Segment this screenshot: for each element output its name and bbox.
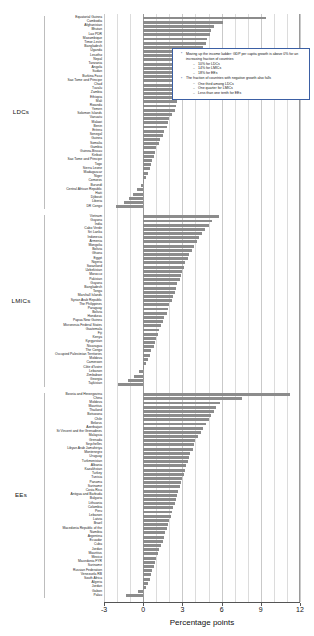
category-label: Tajikistan [88, 381, 102, 385]
group-label-ldcs: LDCs [0, 108, 42, 115]
bar [143, 431, 200, 434]
bar [143, 176, 146, 179]
x-tick-label-12: 12 [296, 606, 304, 613]
bar [143, 236, 199, 239]
bar [143, 345, 153, 348]
bar [143, 511, 172, 514]
bar [143, 586, 146, 589]
bar [143, 366, 144, 369]
bar [143, 573, 151, 576]
annotation-callout: Moving up the income ladder: GDP per cap… [172, 48, 310, 100]
annotation-sub-list: One third among LDCsOne quarter for LMIC… [186, 82, 306, 96]
bar [143, 249, 191, 252]
bar [143, 224, 208, 227]
bar [143, 155, 153, 158]
bar [143, 506, 173, 509]
bar [143, 523, 168, 526]
bar [143, 565, 153, 568]
bar [143, 460, 187, 463]
bar [128, 379, 144, 382]
bar [143, 406, 216, 409]
bar [138, 590, 143, 593]
bar [143, 414, 211, 417]
annotation-bullet-text: The fraction of countries with negative … [186, 76, 271, 80]
x-tick-label-3: 3 [180, 606, 184, 613]
bar [143, 456, 189, 459]
bar [133, 193, 143, 196]
bar [143, 105, 176, 108]
bar [143, 410, 214, 413]
bar [143, 423, 206, 426]
annotation-bullet: Moving up the income ladder: GDP per cap… [182, 52, 306, 75]
bar [143, 397, 242, 400]
bar [143, 569, 152, 572]
bar [143, 502, 174, 505]
bar [143, 180, 144, 183]
bar [143, 498, 176, 501]
bar [143, 481, 181, 484]
bar [118, 383, 143, 386]
bar [143, 439, 195, 442]
bar [143, 232, 202, 235]
group-label-ees: EEs [0, 491, 42, 498]
bar [143, 418, 208, 421]
bar [143, 548, 159, 551]
bar [143, 349, 151, 352]
bar [143, 464, 186, 467]
bar [143, 134, 163, 137]
annotation-sub-bullet: Less than one tenth for EEs [194, 91, 306, 96]
bar [143, 557, 156, 560]
x-axis-title: Percentage points [104, 618, 300, 627]
bar [143, 287, 176, 290]
bar [143, 172, 148, 175]
annotation-bullet-list: Moving up the income ladder: GDP per cap… [177, 52, 306, 95]
bar [143, 333, 157, 336]
annotation-sub-bullet: 18% for EEs [194, 71, 306, 76]
bar [139, 370, 143, 373]
bar [143, 540, 163, 543]
bar [143, 402, 220, 405]
bar [143, 544, 161, 547]
bar [143, 531, 165, 534]
x-tick-label-9: 9 [259, 606, 263, 613]
table-row: Tajikistan [0, 382, 314, 386]
bar [143, 299, 172, 302]
group-divider [44, 16, 45, 209]
bar [143, 443, 194, 446]
bar [143, 362, 146, 365]
bar [143, 312, 167, 315]
bar [143, 490, 178, 493]
bar [143, 274, 181, 277]
bar [143, 215, 219, 218]
bar [143, 337, 156, 340]
bar [143, 354, 150, 357]
bar [143, 527, 167, 530]
bar [143, 282, 177, 285]
group-divider [44, 215, 45, 387]
bar [143, 303, 169, 306]
bar [143, 130, 164, 133]
bar [143, 291, 174, 294]
bar [143, 427, 203, 430]
bar [143, 163, 151, 166]
bar [143, 561, 155, 564]
bar [143, 582, 148, 585]
bar [134, 375, 143, 378]
bar [143, 494, 177, 497]
bar [143, 452, 190, 455]
bar [143, 515, 170, 518]
bar [143, 29, 211, 32]
bar [126, 594, 143, 597]
annotation-bullet: The fraction of countries with negative … [182, 76, 306, 95]
bar [143, 358, 148, 361]
group-divider [44, 393, 45, 598]
table-row: DR Congo [0, 205, 314, 209]
bar [129, 197, 143, 200]
bar [143, 38, 207, 41]
bar [143, 113, 172, 116]
bar [143, 341, 155, 344]
bar [143, 245, 194, 248]
bar [143, 278, 180, 281]
table-row: Palau [0, 594, 314, 598]
bar [141, 184, 144, 187]
